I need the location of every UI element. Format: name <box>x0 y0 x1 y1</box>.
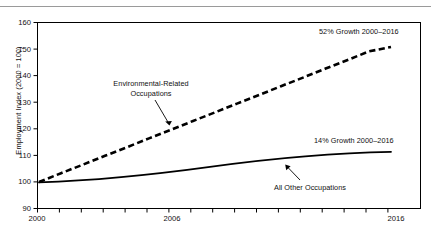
series-line-all-other <box>39 152 391 183</box>
series-line-environmental <box>39 47 391 182</box>
y-axis-ticks <box>34 23 38 209</box>
x-axis-ticks <box>38 209 388 213</box>
plot-svg <box>0 0 431 235</box>
annotation-arrow-environmental <box>155 100 172 126</box>
annotation-arrow-all-other <box>285 164 300 180</box>
plot-frame <box>38 23 421 209</box>
employment-index-chart: Employment Index (2000 = 100) 160 150 14… <box>0 0 431 235</box>
